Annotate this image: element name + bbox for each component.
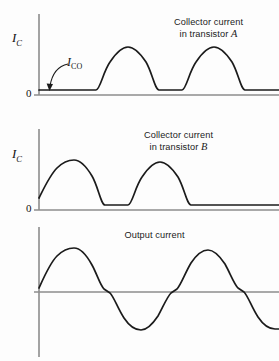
panel-a-origin-label: 0 xyxy=(26,87,32,99)
waveform-figure: IC 0 ICO Collector current in transistor… xyxy=(0,0,279,361)
panel-a-caption: Collector current in transistor A xyxy=(151,17,266,41)
panel-a-caption-line2: in transistor A xyxy=(180,29,238,39)
panel-c-caption-line1: Output current xyxy=(124,230,184,240)
panel-c-plot xyxy=(0,225,279,361)
panel-c-caption: Output current xyxy=(102,230,207,241)
panel-b-waveform xyxy=(39,160,279,205)
panel-b-caption-line1: Collector current xyxy=(144,130,213,140)
panel-a-y-axis-label: IC xyxy=(12,30,22,48)
panel-c-waveform xyxy=(39,248,279,330)
panel-a-caption-line1: Collector current xyxy=(174,17,243,27)
panel-a-ico-arrow xyxy=(50,64,68,86)
panel-b-y-axis-label: IC xyxy=(12,146,22,164)
panel-a-ico-label: ICO xyxy=(67,55,83,71)
panel-b-caption: Collector current in transistor B xyxy=(121,130,236,154)
panel-b-caption-line2: in transistor B xyxy=(150,142,208,152)
panel-b-origin-label: 0 xyxy=(26,202,32,214)
